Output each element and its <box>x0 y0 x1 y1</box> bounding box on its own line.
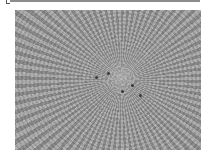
center-highlight <box>15 10 201 150</box>
dark-speck <box>139 94 142 97</box>
dark-speck <box>131 84 134 87</box>
texture-image <box>15 10 201 150</box>
corner-mark-icon <box>6 0 10 4</box>
top-divider-bar <box>10 0 200 2</box>
dark-speck <box>107 72 110 75</box>
dark-speck <box>121 90 124 93</box>
dark-speck <box>95 76 98 79</box>
